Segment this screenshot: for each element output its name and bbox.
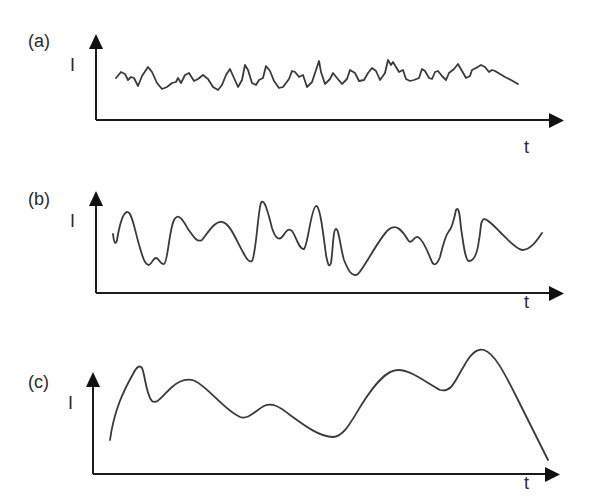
x-axis-arrow-icon [545,467,560,482]
plot-c [0,0,611,500]
signal-trace-c [110,350,548,460]
y-axis-arrow-icon [86,372,100,387]
panel-c: (c) I t [0,0,611,500]
